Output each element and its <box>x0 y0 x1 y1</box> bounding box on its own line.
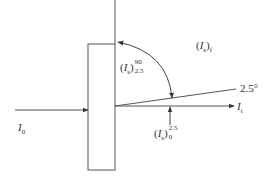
label-sup: 90 <box>135 59 142 66</box>
label-sub: 0 <box>22 128 26 136</box>
sup-sub-stack: 902.5 <box>134 62 146 73</box>
angle-label: 2.5° <box>240 83 258 94</box>
label-sub: f <box>210 46 212 54</box>
incident-intensity-label: I0 <box>18 122 25 136</box>
label-sup: 2.5 <box>169 125 178 132</box>
sup-sub-stack: 2.50 <box>168 128 180 139</box>
label-sub: 0 <box>169 134 173 141</box>
optical-diagram <box>0 0 268 183</box>
angle-line-2.5-deg <box>115 89 236 106</box>
label-sub: 2.5 <box>135 68 144 75</box>
label-sub: t <box>241 107 243 115</box>
wide-angle-scatter-label: (Is)902.5 <box>120 62 146 76</box>
forward-scatter-label: (Is)f <box>196 40 212 54</box>
narrow-angle-scatter-label: (Is)2.50 <box>154 128 180 142</box>
sample-slab <box>88 44 115 170</box>
transmitted-intensity-label: It <box>237 101 243 115</box>
